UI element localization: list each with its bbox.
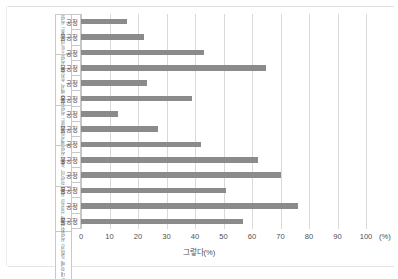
x-axis-title: 그렇다(%) <box>0 246 398 257</box>
x-tick-30: 30 <box>162 232 170 242</box>
response-label-cell: 공정 <box>72 14 81 29</box>
bar-row <box>81 198 366 213</box>
response-label-cell: 불공정 <box>72 29 81 44</box>
bar-row <box>81 122 366 137</box>
response-label-cell: 공정 <box>72 167 81 182</box>
bar-row <box>81 168 366 183</box>
x-tick-40: 40 <box>191 232 199 242</box>
x-tick-60: 60 <box>248 232 256 242</box>
bar-row <box>81 60 366 75</box>
response-label-cell: 불공정 <box>72 121 81 136</box>
x-tick-70: 70 <box>276 232 284 242</box>
bar-row <box>81 106 366 121</box>
plot-area <box>81 14 366 229</box>
response-label-cell: 공정 <box>72 45 81 60</box>
response-axis-labels: 공정불공정공정불공정공정불공정공정불공정공정불공정공정불공정공정불공정 <box>72 14 81 229</box>
response-label-cell: 공정 <box>72 197 81 212</box>
bar <box>81 65 266 71</box>
response-label-text: 불공정 <box>60 156 78 163</box>
response-label-cell: 공정 <box>72 136 81 151</box>
response-label-text: 공정 <box>66 202 78 209</box>
bar <box>81 96 192 102</box>
x-tick-20: 20 <box>134 232 142 242</box>
response-label-text: 불공정 <box>60 126 78 133</box>
bar <box>81 219 243 225</box>
response-label-text: 불공정 <box>60 217 78 224</box>
x-tick-0: 0 <box>79 232 83 242</box>
response-label-text: 불공정 <box>60 34 78 41</box>
response-label-cell: 불공정 <box>72 213 81 229</box>
bar-row <box>81 14 366 29</box>
category-axis-labels: 소득이 높은 사람직장에서 승진한 사람재산이 많은 사람학력이 높은 사람취업… <box>55 14 72 229</box>
x-tick-80: 80 <box>305 232 313 242</box>
bar-series <box>81 14 366 229</box>
bar <box>81 172 281 178</box>
category-label-cell: 학력이 높은 사람 <box>55 145 72 185</box>
response-label-text: 불공정 <box>60 95 78 102</box>
response-label-cell: 불공정 <box>72 182 81 197</box>
bar-row <box>81 45 366 60</box>
bar-chart-figure: 소득이 높은 사람직장에서 승진한 사람재산이 많은 사람학력이 높은 사람취업… <box>0 0 398 279</box>
response-label-text: 공정 <box>66 171 78 178</box>
bar <box>81 188 226 194</box>
response-label-text: 공정 <box>66 141 78 148</box>
bar-row <box>81 137 366 152</box>
bar-row <box>81 91 366 106</box>
bar-row <box>81 183 366 198</box>
bar <box>81 111 118 117</box>
bar-row <box>81 29 366 44</box>
bar-row <box>81 214 366 229</box>
x-tick-100: 100 <box>360 232 373 242</box>
x-axis-unit-label: (%) <box>379 232 391 242</box>
response-label-text: 공정 <box>66 49 78 56</box>
response-label-text: 불공정 <box>60 64 78 71</box>
response-label-cell: 공정 <box>72 75 81 90</box>
response-label-text: 공정 <box>66 19 78 26</box>
bar-row <box>81 75 366 90</box>
response-label-cell: 불공정 <box>72 90 81 105</box>
response-label-cell: 불공정 <box>72 60 81 75</box>
response-label-text: 공정 <box>66 110 78 117</box>
bar <box>81 34 144 40</box>
x-tick-10: 10 <box>105 232 113 242</box>
bar <box>81 203 298 209</box>
response-label-cell: 불공정 <box>72 152 81 167</box>
bar <box>81 126 158 132</box>
x-tick-50: 50 <box>219 232 227 242</box>
bar <box>81 80 147 86</box>
bar <box>81 142 201 148</box>
bar-row <box>81 152 366 167</box>
category-label-text: 학력이 높은 사람 <box>61 146 66 185</box>
gridline-100 <box>366 14 367 229</box>
bar <box>81 19 127 25</box>
x-axis-tick-labels: 0102030405060708090100(%) <box>0 232 398 244</box>
response-label-text: 불공정 <box>60 187 78 194</box>
response-label-cell: 공정 <box>72 106 81 121</box>
response-label-text: 공정 <box>66 80 78 87</box>
x-tick-90: 90 <box>333 232 341 242</box>
bar <box>81 50 204 56</box>
bar <box>81 157 258 163</box>
